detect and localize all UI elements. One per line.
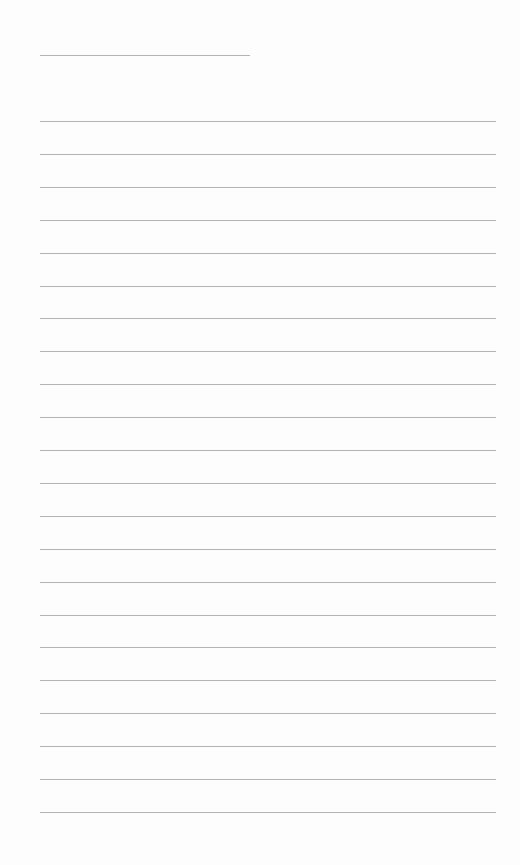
ruled-line xyxy=(40,253,496,254)
ruled-line xyxy=(40,220,496,221)
ruled-line xyxy=(40,582,496,583)
ruled-line xyxy=(40,318,496,319)
ruled-line xyxy=(40,615,496,616)
ruled-line xyxy=(40,384,496,385)
ruled-line xyxy=(40,680,496,681)
ruled-line xyxy=(40,154,496,155)
ruled-line xyxy=(40,516,496,517)
ruled-line xyxy=(40,549,496,550)
title-line xyxy=(40,55,250,56)
ruled-line xyxy=(40,647,496,648)
ruled-line xyxy=(40,779,496,780)
ruled-line xyxy=(40,121,496,122)
ruled-line xyxy=(40,417,496,418)
ruled-line xyxy=(40,713,496,714)
ruled-line xyxy=(40,187,496,188)
ruled-line xyxy=(40,746,496,747)
ruled-line xyxy=(40,812,496,813)
ruled-line xyxy=(40,286,496,287)
ruled-line xyxy=(40,483,496,484)
ruled-line xyxy=(40,351,496,352)
ruled-line xyxy=(40,450,496,451)
